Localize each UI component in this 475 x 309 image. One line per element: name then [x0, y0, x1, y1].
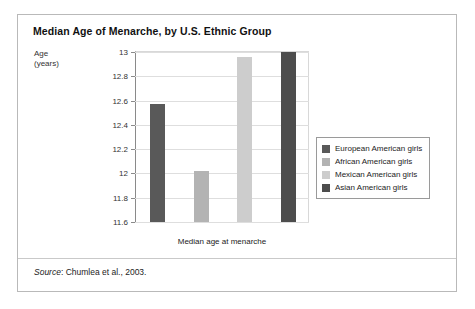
y-tick-mark: [131, 173, 135, 174]
gridline: [135, 222, 309, 223]
footer-divider: [18, 258, 456, 259]
y-tick-label: 12.2: [112, 145, 128, 154]
plot-area: 1312.812.612.412.21211.811.6: [135, 51, 309, 223]
legend-swatch-icon: [322, 171, 330, 179]
bar: [281, 52, 296, 222]
legend-label: Mexican American girls: [335, 170, 417, 179]
legend-item: Mexican American girls: [322, 168, 422, 181]
bar: [150, 104, 165, 222]
bar: [237, 57, 252, 222]
figure-panel: Median Age of Menarche, by U.S. Ethnic G…: [17, 14, 457, 292]
legend-item: African American girls: [322, 155, 422, 168]
chart-title: Median Age of Menarche, by U.S. Ethnic G…: [33, 25, 272, 37]
bar-series: [136, 52, 308, 222]
y-tick-mark: [131, 198, 135, 199]
y-tick-mark: [131, 222, 135, 223]
x-axis-caption: Median age at menarche: [135, 237, 309, 246]
y-tick-label: 12.6: [112, 97, 128, 106]
legend-swatch-icon: [322, 184, 330, 192]
y-tick-mark: [131, 149, 135, 150]
legend-swatch-icon: [322, 145, 330, 153]
y-tick-label: 11.6: [113, 218, 128, 227]
legend-label: European American girls: [335, 144, 422, 153]
y-tick-label: 12: [119, 169, 128, 178]
y-tick-label: 11.8: [113, 194, 128, 203]
legend-label: Asian American girls: [335, 183, 407, 192]
y-axis-label-line1: Age: [34, 49, 59, 59]
y-axis-label: Age (years): [34, 49, 59, 69]
y-tick-mark: [131, 76, 135, 77]
y-tick-label: 12.8: [112, 72, 128, 81]
y-tick-mark: [131, 125, 135, 126]
y-axis-label-line2: (years): [34, 59, 59, 69]
source-label: Source: [34, 267, 61, 277]
legend-item: Asian American girls: [322, 181, 422, 194]
y-tick-mark: [131, 101, 135, 102]
y-tick-label: 12.4: [112, 121, 128, 130]
source-note: Source: Chumlea et al., 2003.: [34, 267, 146, 277]
source-citation: : Chumlea et al., 2003.: [61, 267, 147, 277]
chart-legend: European American girlsAfrican American …: [316, 137, 430, 199]
y-tick-label: 13: [119, 48, 128, 57]
legend-item: European American girls: [322, 142, 422, 155]
y-tick-mark: [131, 52, 135, 53]
legend-label: African American girls: [335, 157, 412, 166]
bar: [194, 171, 209, 222]
legend-swatch-icon: [322, 158, 330, 166]
